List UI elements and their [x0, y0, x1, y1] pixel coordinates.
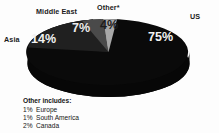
pie-value-asia: 14% [31, 33, 56, 46]
footnote-item-pct: 1% [23, 106, 36, 114]
pie-value-middle-east: 7% [72, 22, 90, 35]
footnote-item-pct: 1% [23, 114, 36, 122]
footnote-item-name: Europe [36, 106, 57, 113]
pie-value-other: 4% [100, 19, 118, 32]
footnote-item: 1%Europe [23, 106, 79, 114]
footnote-item: 1%South America [23, 114, 79, 122]
footnote-item: 2%Canada [23, 122, 79, 130]
pie-chart: US Other* Middle East Asia 75% 4% 7% 14%… [0, 0, 219, 133]
pie-label-asia: Asia [4, 36, 20, 43]
pie-label-other: Other* [97, 4, 120, 11]
footnote-item-pct: 2% [23, 122, 36, 130]
footnote-item-name: Canada [36, 122, 59, 129]
pie-value-us: 75% [148, 31, 173, 44]
pie-label-us: US [190, 13, 200, 20]
pie-label-middle-east: Middle East [36, 8, 77, 15]
footnote-item-name: South America [36, 114, 79, 121]
footnote-title: Other includes: [23, 97, 79, 105]
footnote-block: Other includes: 1%Europe 1%South America… [23, 97, 79, 130]
